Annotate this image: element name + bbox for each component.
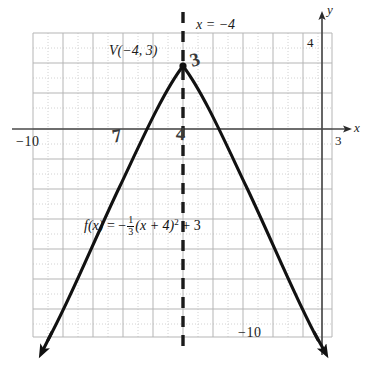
axis-of-symmetry-label: x = −4: [196, 18, 235, 32]
graph-figure: x y −10 3 4 −10 V(−4, 3) x = −4 3 4 7 f(…: [0, 0, 374, 367]
coordinate-plane-svg: [0, 0, 374, 367]
fraction-denominator: 3: [127, 226, 134, 238]
vertex-label: V(−4, 3): [109, 44, 157, 58]
equation-lhs: f(x): [84, 218, 103, 233]
x-tick-label-3: 3: [335, 134, 342, 147]
y-tick-label-4: 4: [307, 36, 314, 49]
x-axis-name-label: x: [354, 121, 360, 134]
vertex-point: [179, 62, 186, 69]
parabola-left-arrow: [42, 332, 52, 352]
parabola-right-arrow: [314, 332, 325, 352]
equation-sign: −: [118, 218, 126, 233]
vertex-x-annotation: 4: [175, 124, 186, 144]
fraction-numerator: 1: [127, 215, 134, 226]
equation-label: f(x) = −13(x + 4)2 + 3: [84, 216, 201, 238]
equation-binomial: (x + 4): [135, 218, 174, 233]
equation-constant: 3: [194, 218, 201, 233]
equation-plus: +: [182, 218, 190, 233]
x-tick-label-neg10: −10: [16, 135, 39, 149]
y-tick-label-neg10: −10: [238, 326, 261, 340]
equation-equals: =: [107, 218, 115, 233]
equation-fraction: 13: [127, 215, 134, 237]
y-axis-name-label: y: [327, 3, 333, 16]
equation-exponent: 2: [174, 217, 179, 227]
